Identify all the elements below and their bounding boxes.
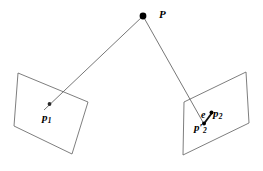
left-projection-label: p1 <box>42 112 52 124</box>
scene-point-label-text: P <box>159 8 166 20</box>
epipole-label-text: e <box>201 109 205 120</box>
scene-point-marker <box>140 13 147 20</box>
right-projection-prime-label-subscript: 2 <box>203 126 207 135</box>
epipolar-geometry-figure: P p1 e p2 p′2 <box>0 0 263 171</box>
right-projection-label-base: p <box>213 107 219 119</box>
right-projection-prime-label: p′2 <box>194 122 207 134</box>
epipole-label: e <box>201 110 205 120</box>
right-projection-label-subscript: 2 <box>219 112 223 121</box>
left-projection-label-subscript: 1 <box>48 116 52 125</box>
left-projection-point-marker <box>48 102 52 106</box>
ray-from-scene-point-to-left-plane <box>44 16 143 110</box>
right-projection-label: p2 <box>213 108 223 120</box>
left-projection-label-base: p <box>42 111 48 123</box>
figure-canvas <box>0 0 263 171</box>
scene-point-label: P <box>159 9 166 20</box>
ray-from-scene-point-to-right-plane <box>143 16 204 124</box>
